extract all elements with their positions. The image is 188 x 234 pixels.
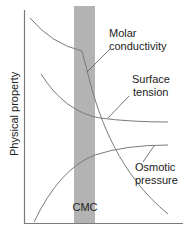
osmotic-pressure-label-2: pressure — [135, 174, 178, 186]
molar-conductivity-label-2: conductivity — [109, 40, 166, 52]
surface-tension-label-1: Surface — [132, 73, 170, 85]
osmotic-pressure-label-1: Osmotic — [135, 161, 175, 173]
osmotic-pressure-leader — [143, 146, 154, 162]
cmc-band — [74, 6, 95, 223]
cmc-diagram: Physical property Molar conductivity Sur… — [0, 0, 188, 234]
diagram-canvas — [0, 0, 188, 234]
cmc-label: CMC — [72, 201, 98, 213]
y-axis-label: Physical property — [8, 76, 20, 156]
surface-tension-leader — [108, 96, 129, 118]
molar-conductivity-label-1: Molar — [109, 27, 137, 39]
surface-tension-label-2: tension — [133, 86, 168, 98]
